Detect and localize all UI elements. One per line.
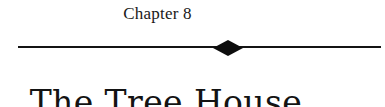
chapter-header: Chapter 8 The Tree House — [0, 0, 385, 107]
diamond-ornament-icon — [213, 40, 243, 56]
divider-rule — [18, 46, 381, 48]
chapter-number-label: Chapter 8 — [0, 3, 385, 25]
ornamental-divider — [18, 40, 381, 56]
chapter-title: The Tree House — [0, 82, 385, 107]
